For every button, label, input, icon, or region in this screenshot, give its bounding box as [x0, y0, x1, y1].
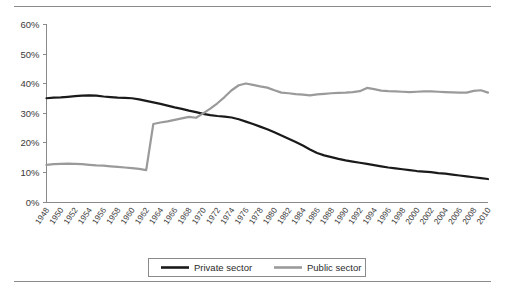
y-tick-label: 50% [20, 49, 40, 60]
x-tick-label: 1968 [176, 206, 194, 226]
header-rule [14, 6, 491, 7]
x-tick-label: 1996 [375, 206, 393, 226]
y-tick-label: 20% [20, 137, 40, 148]
x-tick-label: 1962 [133, 206, 151, 226]
x-tick-label: 1974 [219, 206, 237, 226]
x-tick-label: 1990 [333, 206, 351, 226]
x-tick-label: 1994 [361, 206, 379, 226]
chart-figure: 0%10%20%30%40%50%60% 1948195019521954195… [0, 0, 505, 290]
x-axis: 1948195019521954195619581960196219641966… [34, 203, 494, 227]
y-tick-label: 40% [20, 78, 40, 89]
x-tick-label: 2002 [418, 206, 436, 226]
x-tick-label: 1960 [119, 206, 137, 226]
y-tick-label: 60% [20, 19, 40, 30]
y-axis: 0%10%20%30%40%50%60% [20, 19, 46, 208]
x-tick-label: 1998 [390, 206, 408, 226]
x-tick-label: 1978 [247, 206, 265, 226]
x-tick-label: 1970 [190, 206, 208, 226]
x-tick-label: 2008 [461, 206, 479, 226]
x-tick-label: 2004 [432, 206, 450, 226]
y-tick-label: 30% [20, 108, 40, 119]
x-tick-label: 1958 [105, 206, 123, 226]
x-tick-label: 1954 [76, 206, 94, 226]
x-tick-label: 1972 [204, 206, 222, 226]
line-chart: 0%10%20%30%40%50%60% 1948195019521954195… [0, 0, 505, 290]
x-tick-label: 1956 [90, 206, 108, 226]
x-tick-label: 2006 [447, 206, 465, 226]
footer-rule [14, 281, 491, 282]
x-tick-label: 1984 [290, 206, 308, 226]
legend-label-1: Private sector [194, 262, 252, 273]
x-tick-label: 1966 [162, 206, 180, 226]
x-tick-label: 1964 [147, 206, 165, 226]
x-tick-label: 1976 [233, 206, 251, 226]
x-tick-label: 1992 [347, 206, 365, 226]
y-tick-label: 0% [26, 197, 40, 208]
series-lines [47, 83, 489, 179]
legend-label-2: Public sector [307, 262, 361, 273]
x-tick-label: 2010 [475, 206, 493, 226]
y-tick-label: 10% [20, 167, 40, 178]
x-tick-label: 2000 [404, 206, 422, 226]
x-tick-label: 1982 [276, 206, 294, 226]
x-tick-label: 1952 [62, 206, 80, 226]
x-tick-label: 1948 [34, 206, 52, 226]
x-tick-label: 1988 [318, 206, 336, 226]
chart-legend: Private sectorPublic sector [149, 259, 366, 277]
x-tick-label: 1986 [304, 206, 322, 226]
x-tick-label: 1980 [261, 206, 279, 226]
x-tick-label: 1950 [48, 206, 66, 226]
